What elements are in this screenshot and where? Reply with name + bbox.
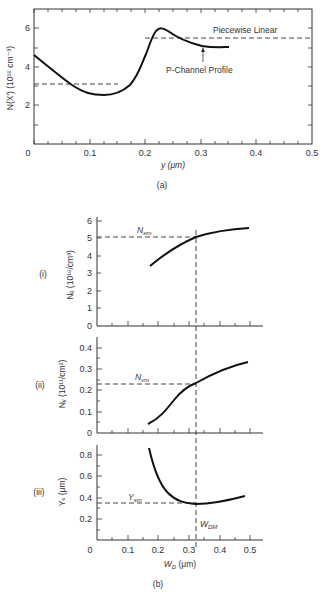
ne-curve bbox=[150, 228, 249, 266]
x-tick: 0 bbox=[25, 148, 30, 158]
chart-b-iii: 0.2 0.4 0.6 0.8 0 0.1 0.2 0.3 0.4 0.5 Yₛ… bbox=[33, 445, 263, 589]
chart-b-i: 0 1 2 3 4 5 6 Nₑ (10¹⁶/cm³) (i) Nem bbox=[39, 216, 263, 331]
nvm-label: Nvm bbox=[135, 372, 149, 383]
x-tick: 0.4 bbox=[250, 148, 263, 158]
x-tick: 0.2 bbox=[139, 148, 152, 158]
axes bbox=[97, 445, 263, 540]
y-tick: 0.2 bbox=[79, 514, 92, 524]
x-axis-label: y (μm) bbox=[160, 160, 185, 170]
chart-b-ii: 0 0.1 0.2 0.3 0.4 Nᵥ (10¹¹/cm²) (ii) Nvm bbox=[35, 337, 263, 438]
x-tick: 0.5 bbox=[306, 148, 319, 158]
x-tick: 0.3 bbox=[183, 545, 196, 555]
y-axis-label: Nₑ (10¹⁶/cm³) bbox=[65, 250, 75, 300]
x-tick: 0.3 bbox=[195, 148, 208, 158]
x-tick: 0.5 bbox=[244, 545, 257, 555]
y-tick-labels: 2 4 6 bbox=[25, 23, 30, 110]
y-axis-label: N(X′) (10¹⁶ cm⁻³) bbox=[5, 46, 15, 111]
y-tick: 0.8 bbox=[79, 450, 92, 460]
y-tick: 4 bbox=[25, 62, 30, 72]
x-tick: 0.1 bbox=[84, 148, 97, 158]
y-axis-label: Yₛ (μm) bbox=[57, 477, 67, 506]
x-tick: 0.2 bbox=[152, 545, 165, 555]
x-tick: 0.1 bbox=[122, 545, 135, 555]
piecewise-linear-line bbox=[34, 38, 312, 84]
p-channel-profile-curve bbox=[34, 28, 229, 95]
panel-label: (b) bbox=[153, 579, 164, 589]
axes bbox=[97, 217, 263, 326]
y-tick: 0.3 bbox=[79, 364, 92, 374]
ys-curve bbox=[149, 448, 245, 504]
subpanel-label: (iii) bbox=[33, 487, 44, 497]
arrow-icon bbox=[201, 47, 205, 62]
nem-label: Nem bbox=[137, 225, 151, 236]
y-tick: 2 bbox=[25, 100, 30, 110]
panel-label: (a) bbox=[157, 180, 168, 190]
y-tick: 0.4 bbox=[79, 493, 92, 503]
ysm-label: Ysm bbox=[128, 492, 142, 503]
chart-a: 0 0.1 0.2 0.3 0.4 0.5 2 4 6 N(X′) (10¹⁶ … bbox=[5, 9, 318, 190]
nv-curve bbox=[148, 362, 248, 424]
y-tick: 0.4 bbox=[79, 343, 92, 353]
y-axis-label: Nᵥ (10¹¹/cm²) bbox=[57, 360, 67, 409]
x-tick-labels: 0 0.1 0.2 0.3 0.4 0.5 bbox=[25, 148, 318, 158]
x-tick: 0.4 bbox=[214, 545, 227, 555]
subpanel-label: (ii) bbox=[35, 380, 45, 390]
p-channel-profile-label: P-Channel Profile bbox=[166, 65, 233, 75]
y-tick: 0 bbox=[87, 321, 92, 331]
y-tick: 6 bbox=[87, 216, 92, 226]
y-tick: 6 bbox=[25, 23, 30, 33]
y-tick: 0.1 bbox=[79, 407, 92, 417]
y-tick: 3 bbox=[87, 268, 92, 278]
wdm-label: WDM bbox=[200, 519, 217, 530]
axes bbox=[97, 337, 263, 433]
y-tick: 2 bbox=[87, 286, 92, 296]
y-tick: 4 bbox=[87, 251, 92, 261]
subpanel-label: (i) bbox=[39, 269, 47, 279]
y-tick: 5 bbox=[87, 233, 92, 243]
x-tick: 0 bbox=[87, 545, 92, 555]
x-axis-label: WD (μm) bbox=[164, 559, 197, 570]
piecewise-linear-label: Piecewise Linear bbox=[213, 25, 277, 35]
figure: 0 0.1 0.2 0.3 0.4 0.5 2 4 6 N(X′) (10¹⁶ … bbox=[0, 0, 325, 599]
y-tick: 0.2 bbox=[79, 385, 92, 395]
y-tick: 1 bbox=[87, 303, 92, 313]
y-tick: 0 bbox=[87, 428, 92, 438]
y-tick: 0.6 bbox=[79, 471, 92, 481]
